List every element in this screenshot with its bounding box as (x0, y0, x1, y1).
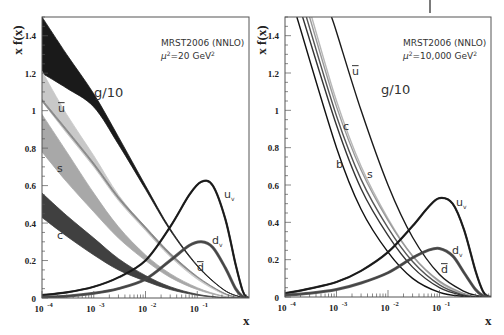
y-tick-label: 0.4 (25, 219, 37, 229)
y-tick-label: 1.4 (25, 31, 37, 41)
y-tick-label: 0.2 (268, 255, 280, 265)
right-plot-panel: 00.20.40.60.811.21.4 10-410-310-210-1 g/… (254, 17, 492, 328)
left-y-axis-label: x f(x) (10, 25, 25, 54)
y-tick-label: 1.2 (268, 69, 280, 79)
y-tick-label: 0 (32, 294, 37, 304)
x-tick-exponent: -3 (342, 300, 348, 307)
band-s (42, 114, 249, 298)
curve-label: d (441, 263, 448, 276)
right-curve-labels: g/10ucbsuvdvd (336, 65, 467, 276)
x-tick-label: 10 (329, 303, 339, 313)
curve-label: b (336, 158, 343, 171)
curve-label: c (57, 229, 63, 242)
curve-label: uv (224, 188, 235, 202)
curve-label: g/10 (381, 82, 410, 97)
y-tick-label: 1.4 (268, 31, 280, 41)
y-tick-label: 0.8 (25, 144, 37, 154)
curve-label: dv (212, 234, 223, 248)
left-annotation-title: MRST2006 (NNLO) (161, 38, 244, 48)
curve-label: s (367, 168, 373, 181)
right-annotation-title: MRST2006 (NNLO) (403, 38, 486, 48)
x-tick-exponent: -1 (203, 301, 208, 308)
y-tick-label: 0 (275, 293, 280, 303)
y-tick-label: 1 (32, 106, 37, 116)
right-y-axis-label: x f(x) (254, 25, 269, 54)
curve-band-u_v (285, 198, 491, 297)
x-tick-exponent: -4 (290, 300, 296, 307)
x-tick-exponent: -2 (151, 301, 156, 308)
curve-label: g/10 (94, 85, 123, 100)
curve-label: c (343, 120, 349, 133)
x-tick-exponent: -3 (99, 301, 105, 308)
curve-label: u (352, 65, 359, 78)
y-tick-label: 0.8 (268, 143, 280, 153)
right-y-axis-ticks: 00.20.40.60.811.21.4 (268, 17, 291, 303)
right-annotation-scale: μ2=10,000 GeV2 (402, 50, 477, 62)
x-tick-exponent: -2 (393, 300, 398, 307)
x-tick-label: 10 (35, 304, 45, 314)
y-tick-label: 0.2 (25, 256, 37, 266)
right-x-axis-label: x (485, 313, 492, 328)
x-tick-label: 10 (190, 304, 200, 314)
curve-u-v (285, 198, 491, 297)
x-tick-label: 10 (86, 304, 96, 314)
x-tick-label: 10 (278, 303, 288, 313)
x-tick-label: 10 (381, 303, 391, 313)
pdf-comparison-figure: 00.20.40.60.811.21.4 10-410-310-210-1 g/… (0, 0, 504, 335)
x-tick-exponent: -1 (445, 300, 450, 307)
curve-label: u (58, 102, 65, 115)
y-tick-label: 1 (275, 106, 280, 116)
y-tick-label: 0.6 (268, 181, 280, 191)
x-tick-exponent: -4 (47, 301, 53, 308)
left-x-axis-label: x (243, 313, 250, 328)
curve-label: uv (456, 196, 467, 210)
curve-label: dv (452, 244, 463, 258)
curve-label: s (57, 162, 63, 175)
left-plot-panel: 00.20.40.60.811.21.4 10-410-310-210-1 g/… (10, 17, 250, 328)
x-tick-label: 10 (432, 303, 442, 313)
y-tick-label: 0.4 (268, 218, 280, 228)
left-annotation-scale: μ2=20 GeV2 (160, 50, 215, 62)
y-tick-label: 0.6 (25, 181, 37, 191)
y-tick-label: 1.2 (25, 69, 37, 79)
x-tick-label: 10 (138, 304, 148, 314)
curve-label: d (197, 261, 204, 274)
